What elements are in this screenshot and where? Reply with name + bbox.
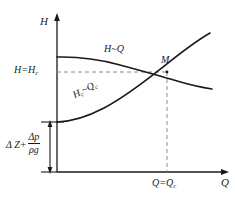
- operating-point-label: M: [161, 55, 169, 65]
- static-head-dimension-group: [41, 120, 64, 174]
- guide-lines-group: [57, 72, 167, 172]
- figure-canvas: [0, 0, 235, 204]
- x-axis-arrowhead: [221, 169, 229, 175]
- static-head-delta-z: Δ Z+: [6, 140, 27, 150]
- x-axis-label: Q: [221, 177, 229, 188]
- y-axis-label: H: [40, 16, 48, 27]
- static-head-up-arrowhead: [48, 120, 53, 127]
- y-tick-label: H=Hc: [14, 65, 38, 75]
- x-tick-label: Q=Qc: [152, 178, 176, 188]
- static-head-label: Δ Z+ Δp ρg: [6, 133, 40, 156]
- x-tick-label-text: Q=Q: [152, 177, 173, 188]
- static-head-fraction: Δp ρg: [28, 132, 41, 155]
- static-head-numerator: Δp: [28, 132, 41, 143]
- pump-operating-point-figure: H Q H=Hc Q=Qc H~Q Hc~Qc M Δ Z+ Δp ρg: [0, 0, 235, 204]
- static-head-down-arrowhead: [48, 167, 53, 174]
- static-head-denominator: ρg: [28, 143, 41, 156]
- y-tick-label-subscript: c: [35, 69, 38, 76]
- operating-point-marker: [166, 71, 169, 74]
- y-tick-label-text: H=H: [14, 64, 35, 75]
- system-resistance-curve: [57, 33, 210, 122]
- x-tick-label-subscript: c: [173, 182, 176, 189]
- pump-curve-label: H~Q: [104, 44, 124, 54]
- y-axis-arrowhead: [54, 13, 60, 21]
